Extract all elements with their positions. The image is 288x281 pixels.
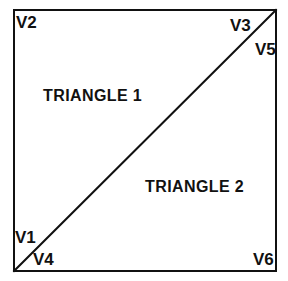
face-label-triangle-2: TRIANGLE 2	[145, 179, 244, 195]
vertex-label-v5: V5	[255, 41, 276, 58]
face-label-triangle-1: TRIANGLE 1	[43, 88, 142, 104]
vertex-label-v2: V2	[16, 14, 37, 31]
diagram-canvas: V2 V3 V5 V1 V4 V6 TRIANGLE 1 TRIANGLE 2	[0, 0, 288, 281]
quadrilateral-outline	[13, 9, 277, 272]
vertex-label-v4: V4	[33, 251, 54, 268]
vertex-label-v1: V1	[15, 229, 36, 246]
vertex-label-v3: V3	[230, 17, 251, 34]
vertex-label-v6: V6	[253, 251, 274, 268]
